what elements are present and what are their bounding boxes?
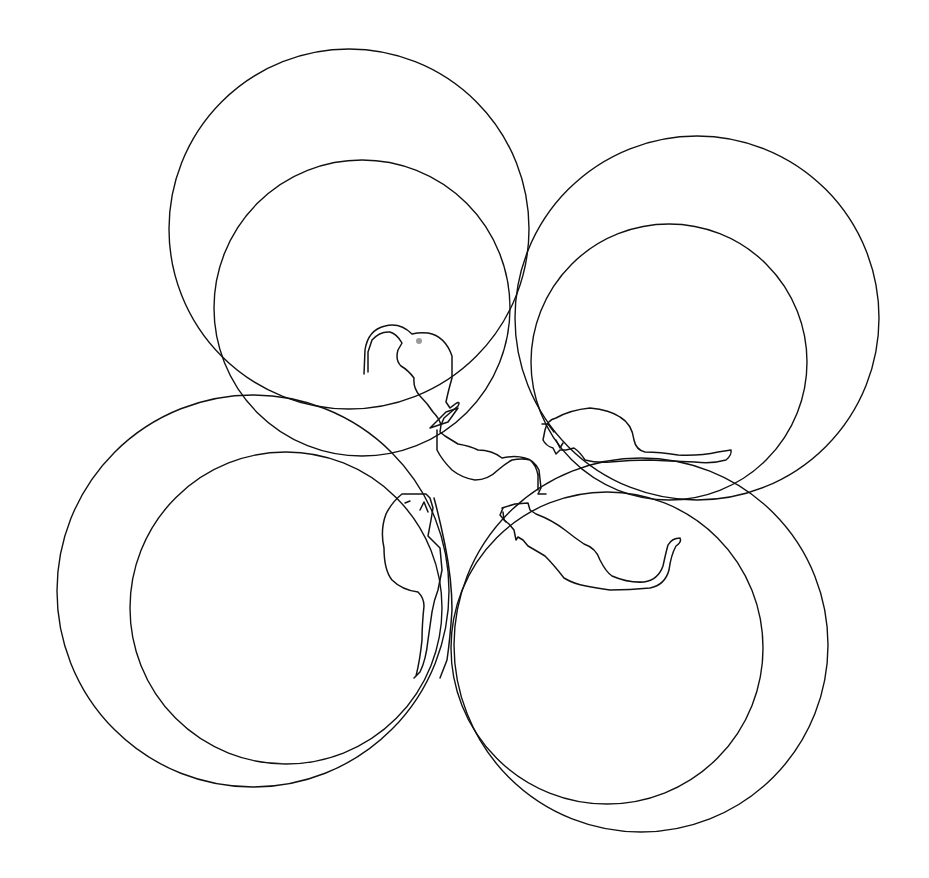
mouse-bottom-right-outline [502, 503, 681, 590]
circle-top-right-inner [531, 224, 807, 500]
mouse-right-outline [543, 408, 731, 463]
mice-circles-drawing [0, 0, 929, 878]
circle-paths-group [57, 49, 879, 832]
smudge [416, 338, 422, 344]
mice-group [364, 325, 731, 678]
circle-bottom-left-inner [130, 452, 442, 764]
circle-top-right-outer [515, 136, 879, 500]
circle-top-left-outer [169, 49, 529, 409]
mouse-left-outline [382, 494, 452, 678]
circle-bottom-right-outer [454, 458, 828, 832]
circle-top-left-inner [214, 160, 510, 456]
circle-bottom-right-inner [451, 492, 763, 804]
